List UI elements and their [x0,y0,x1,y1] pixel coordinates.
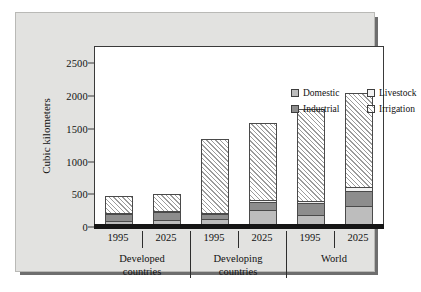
legend: DomesticLivestockIndustrialIrrigation [291,88,421,120]
bar-developing-countries-1995[interactable] [201,139,229,227]
x-axis-group-label-line2: countries [188,266,288,279]
bar-segment-irrigation [298,110,324,202]
legend-item-label: Livestock [379,88,416,98]
bar-segment-industrial [298,204,324,215]
legend-item-irrigation[interactable]: Irrigation [367,104,415,114]
y-axis-tick-label: 1000 [66,156,88,167]
x-axis-pair-divider [142,231,143,248]
y-axis-tick-label: 2000 [66,91,88,102]
x-axis-year-label: 1995 [192,232,236,243]
bar-segment-irrigation [154,195,180,212]
livestock-swatch [367,89,375,97]
x-axis-group-label: World [284,253,384,266]
y-axis-tick-label: 1500 [66,123,88,134]
x-axis-group-label-line1: World [284,253,384,266]
x-axis-year-label: 1995 [288,232,332,243]
x-axis: 199520251995202519952025Developedcountri… [94,229,382,287]
x-axis-group-label-line2: countries [92,266,192,279]
plot-area: DomesticLivestockIndustrialIrrigation [94,46,384,228]
legend-item-industrial[interactable]: Industrial [291,104,339,114]
legend-item-domestic[interactable]: Domestic [291,88,339,98]
x-axis-group-label: Developedcountries [92,253,192,278]
legend-item-label: Industrial [303,104,339,114]
x-axis-group-label-line1: Developed [92,253,192,266]
x-axis-pair-divider [334,231,335,248]
bar-world-1995[interactable] [297,109,325,227]
bars-container [95,47,383,227]
bar-segment-irrigation [250,124,276,201]
bar-segment-irrigation [202,140,228,214]
figure-panel: Cubic kilometers 05001000150020002500 Do… [15,12,375,272]
bar-segment-industrial [250,203,276,211]
bar-developed-countries-1995[interactable] [105,196,133,227]
bar-segment-irrigation [106,197,132,214]
irrigation-swatch [367,105,375,113]
legend-item-label: Domestic [303,88,339,98]
x-axis-year-label: 2025 [144,232,188,243]
legend-item-livestock[interactable]: Livestock [367,88,416,98]
y-axis-tick-label: 500 [72,189,88,200]
x-axis-year-label: 2025 [336,232,380,243]
y-axis-tick-label: 2500 [66,58,88,69]
bar-segment-industrial [154,213,180,221]
x-axis-year-label: 2025 [240,232,284,243]
bar-developing-countries-2025[interactable] [249,123,277,227]
x-axis-group-label-line1: Developing [188,253,288,266]
domestic-swatch [291,89,299,97]
legend-item-label: Irrigation [379,104,415,114]
bar-segment-industrial [346,192,372,207]
x-axis-group-label: Developingcountries [188,253,288,278]
y-axis: 05001000150020002500 [16,46,94,228]
industrial-swatch [291,105,299,113]
x-axis-year-label: 1995 [96,232,140,243]
bar-developed-countries-2025[interactable] [153,194,181,227]
x-axis-pair-divider [238,231,239,248]
